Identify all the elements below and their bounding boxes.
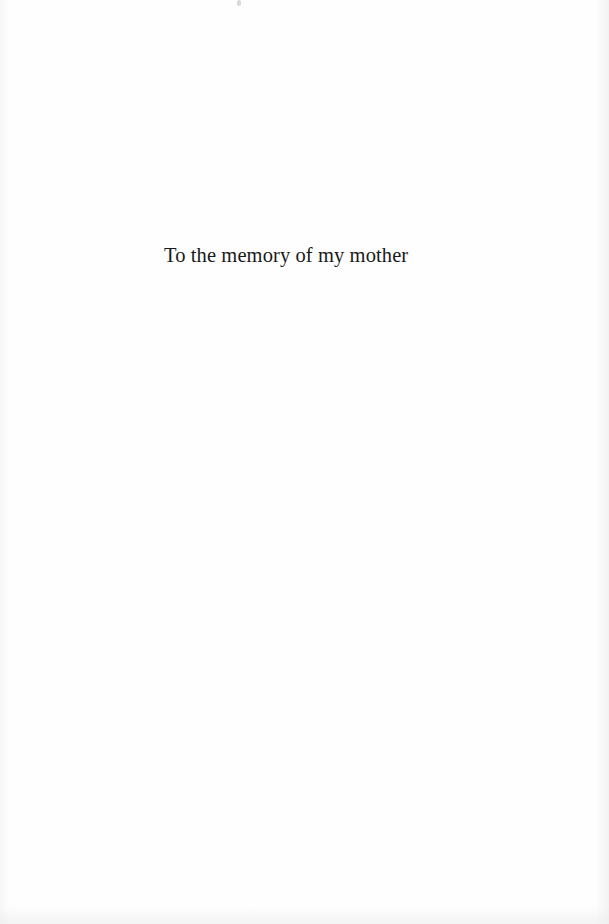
dedication-text: To the memory of my mother xyxy=(164,243,408,267)
scan-shadow-right xyxy=(595,0,609,924)
scan-shadow-left xyxy=(0,0,10,924)
scan-shadow-bottom xyxy=(0,906,609,924)
scan-speck xyxy=(237,0,241,6)
book-page: To the memory of my mother xyxy=(0,0,609,924)
